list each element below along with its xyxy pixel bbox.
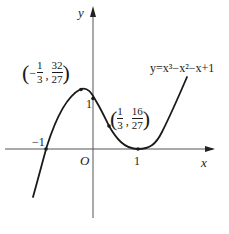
tick-label-y-one: 1	[86, 98, 92, 110]
y-fraction: 16 27	[132, 106, 143, 131]
local-maximum-label: ( − 1 3 , 32 27 )	[22, 60, 70, 85]
cubic-curve	[33, 77, 187, 197]
separator: ,	[126, 115, 129, 127]
tick-label-x-one: 1	[134, 155, 140, 167]
open-paren: (	[22, 62, 29, 84]
y-numerator: 32	[52, 60, 63, 71]
x-axis-arrow-icon	[205, 146, 215, 152]
open-paren: (	[110, 108, 117, 130]
tick-label-x-neg-one: −1	[32, 136, 45, 148]
y-denominator: 27	[52, 74, 63, 85]
close-paren: )	[63, 62, 70, 84]
local-maximum-dot	[79, 88, 83, 92]
x-sign: −	[29, 67, 36, 79]
x-numerator: 1	[37, 60, 43, 71]
separator: ,	[46, 69, 49, 81]
x-denominator: 3	[37, 74, 43, 85]
y-fraction: 32 27	[52, 60, 63, 85]
x-numerator: 1	[117, 106, 123, 117]
function-label: y=x³−x²−x+1	[150, 62, 214, 74]
y-axis-label: y	[78, 6, 84, 19]
x-denominator: 3	[117, 120, 123, 131]
y-numerator: 16	[132, 106, 143, 117]
inflection-point-label: ( 1 3 , 16 27 )	[110, 106, 150, 131]
x-fraction: 1 3	[37, 60, 43, 85]
x-fraction: 1 3	[117, 106, 123, 131]
local-minimum-dot	[136, 147, 140, 151]
y-axis-arrow-icon	[90, 6, 96, 17]
origin-label: O	[80, 154, 89, 167]
close-paren: )	[143, 108, 150, 130]
x-axis-label: x	[201, 156, 207, 169]
y-denominator: 27	[132, 120, 143, 131]
